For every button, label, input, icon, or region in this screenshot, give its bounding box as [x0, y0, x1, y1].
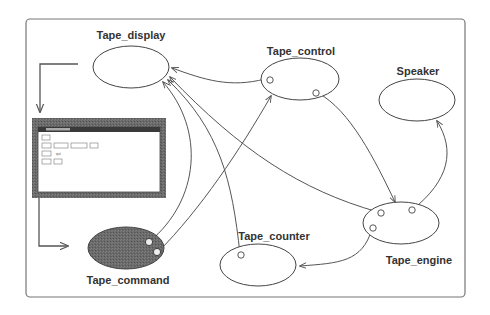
svg-text:quit: quit — [56, 152, 61, 156]
node-label: Speaker — [397, 65, 441, 77]
node-label: Tape_command — [87, 274, 170, 286]
tape-command-window: quit — [32, 118, 166, 198]
node-tape-command[interactable]: Tape_command — [87, 227, 170, 286]
component-diagram: quit Tape_display Tape_control Speaker T… — [0, 0, 490, 315]
node-label: Tape_counter — [238, 230, 310, 242]
node-tape-control[interactable]: Tape_control — [261, 45, 339, 100]
node-label: Tape_display — [97, 29, 167, 41]
node-tape-display[interactable]: Tape_display — [93, 29, 169, 88]
node-label: Tape_control — [267, 45, 335, 57]
node-label: Tape_engine — [386, 254, 452, 266]
